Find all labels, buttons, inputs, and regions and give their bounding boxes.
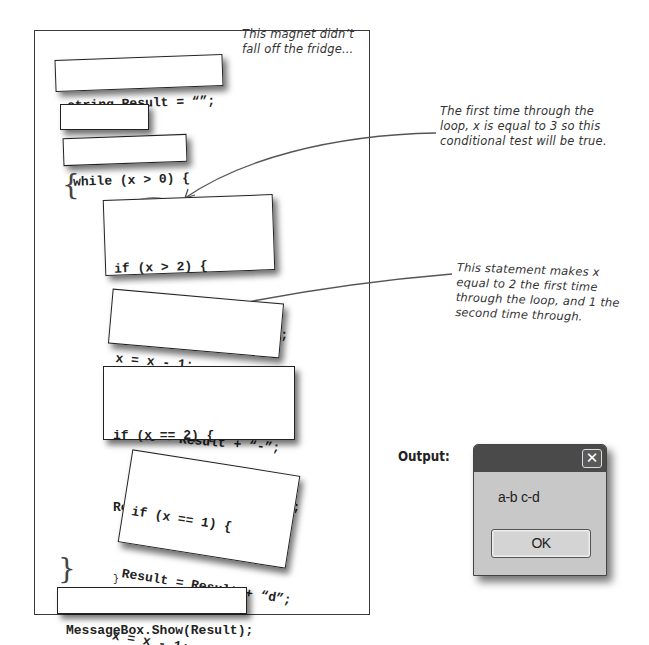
dialog-titlebar: ✕ (474, 445, 606, 472)
close-brace: } (58, 552, 76, 585)
arrow-first-time (185, 133, 436, 198)
close-icon[interactable]: ✕ (582, 449, 602, 468)
if-x-eq-2-magnet[interactable]: if (x == 2) { Result = Result + “b c”; } (103, 366, 295, 440)
note-first-time: The first time through the loop, x is eq… (440, 104, 610, 149)
int-x-magnet[interactable]: int x = 3; (60, 104, 149, 130)
note-fridge: This magnet didn’t fall off the fridge..… (242, 27, 372, 57)
ok-button[interactable]: OK (491, 529, 591, 558)
open-brace: { (62, 168, 80, 201)
string-result-magnet[interactable]: string Result = “”; (54, 54, 223, 92)
messagebox-magnet[interactable]: MessageBox.Show(Result); (57, 587, 247, 614)
note-statement: This statement makes x equal to 2 the fi… (455, 260, 622, 326)
if-x-gt-2-magnet[interactable]: if (x > 2) { Result = Result + “a”; } (103, 194, 276, 276)
message-box-dialog: ✕ a-b c-d OK (473, 444, 607, 576)
dialog-message: a-b c-d (498, 489, 539, 505)
while-magnet[interactable]: while (x > 0) { (63, 134, 188, 166)
output-label: Output: (398, 448, 450, 464)
